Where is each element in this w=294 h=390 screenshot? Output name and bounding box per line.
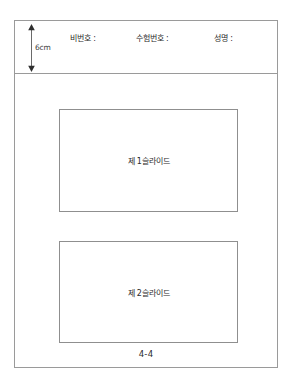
header-band: 6cm 비번호 : 수험번호 : 성명 : [15, 21, 277, 74]
page-footer: 4-4 [15, 342, 277, 361]
page-canvas: 6cm 비번호 : 수험번호 : 성명 : 제 1슬라이드 제 2슬라이드 4-… [0, 0, 294, 390]
slides-body-area: 제 1슬라이드 제 2슬라이드 4-4 [15, 74, 277, 367]
dimension-label: 6cm [35, 43, 51, 52]
slide-placeholder-1: 제 1슬라이드 [59, 109, 238, 212]
slide-placeholder-2: 제 2슬라이드 [59, 241, 238, 343]
header-fields-group: 비번호 : 수험번호 : 성명 : [63, 21, 273, 73]
field-label-bibeonho: 비번호 : [70, 32, 96, 43]
height-dimension-annotation: 6cm [23, 24, 63, 72]
answer-sheet-frame: 6cm 비번호 : 수험번호 : 성명 : 제 1슬라이드 제 2슬라이드 4-… [14, 20, 278, 368]
field-label-exam-number: 수험번호 : [136, 32, 169, 43]
slide-caption-1: 제 1슬라이드 [128, 155, 170, 166]
page-number-label: 4-4 [139, 349, 153, 359]
field-label-name: 성명 : [214, 32, 233, 43]
slide-caption-2: 제 2슬라이드 [128, 287, 170, 298]
